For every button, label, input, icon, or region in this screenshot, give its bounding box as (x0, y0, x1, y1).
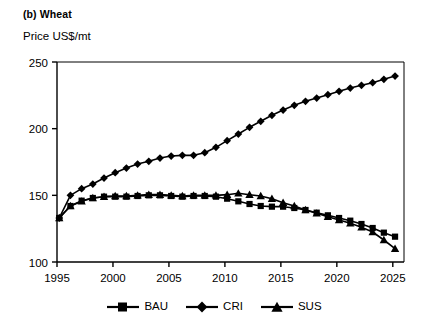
data-point-marker (269, 204, 275, 210)
data-point-marker (190, 151, 198, 159)
y-tick-label: 100 (29, 257, 48, 269)
data-point-marker (89, 180, 97, 188)
data-point-marker (167, 152, 175, 160)
legend-label-sus: SUS (298, 301, 322, 313)
data-point-marker (391, 72, 399, 80)
y-tick-label: 200 (29, 123, 48, 135)
x-tick-label: 2005 (156, 272, 182, 284)
data-point-marker (268, 111, 276, 119)
data-point-marker (246, 201, 252, 207)
data-point-marker (279, 106, 287, 114)
data-point-marker (234, 130, 242, 138)
chart-figure: (b) Wheat Price US$/mt 10015020025019952… (0, 0, 428, 324)
data-point-marker (145, 157, 153, 165)
data-point-marker (78, 185, 86, 193)
legend-label-cri: CRI (223, 301, 243, 313)
data-point-marker (380, 75, 388, 83)
data-point-marker (134, 160, 142, 168)
square-marker-icon (106, 301, 140, 313)
data-point-marker (246, 123, 254, 131)
data-point-marker (257, 117, 265, 125)
data-point-marker (100, 174, 108, 182)
data-point-marker (111, 169, 119, 177)
data-point-marker (358, 81, 366, 89)
legend-label-bau: BAU (144, 301, 168, 313)
data-point-marker (67, 191, 75, 199)
x-tick-label: 2020 (324, 272, 350, 284)
data-point-marker (235, 198, 241, 204)
diamond-marker-icon (185, 301, 219, 313)
data-point-marker (178, 151, 186, 159)
y-tick-label: 250 (29, 57, 48, 69)
legend-item-cri: CRI (185, 301, 243, 313)
chart-legend: BAU CRI SUS (0, 296, 428, 318)
x-tick-label: 2025 (380, 272, 406, 284)
x-tick-label: 1995 (44, 272, 70, 284)
data-point-marker (392, 234, 398, 240)
data-point-marker (369, 79, 377, 87)
data-point-marker (223, 137, 231, 145)
data-point-marker (324, 91, 332, 99)
x-tick-label: 2000 (100, 272, 126, 284)
legend-item-bau: BAU (106, 301, 168, 313)
data-point-marker (335, 87, 343, 95)
legend-item-sus: SUS (260, 301, 322, 313)
x-tick-label: 2010 (212, 272, 238, 284)
plot-area: 1001502002501995200020052010201520202025 (0, 0, 428, 300)
data-point-marker (156, 154, 164, 162)
data-point-marker (346, 84, 354, 92)
data-point-marker (290, 101, 298, 109)
data-point-marker (302, 97, 310, 105)
data-point-marker (258, 203, 264, 209)
triangle-marker-icon (260, 301, 294, 313)
y-tick-label: 150 (29, 190, 48, 202)
data-point-marker (212, 143, 220, 151)
data-point-marker (381, 230, 387, 236)
data-point-marker (201, 149, 209, 157)
data-point-marker (123, 164, 131, 172)
data-point-marker (313, 94, 321, 102)
x-tick-label: 2015 (268, 272, 294, 284)
